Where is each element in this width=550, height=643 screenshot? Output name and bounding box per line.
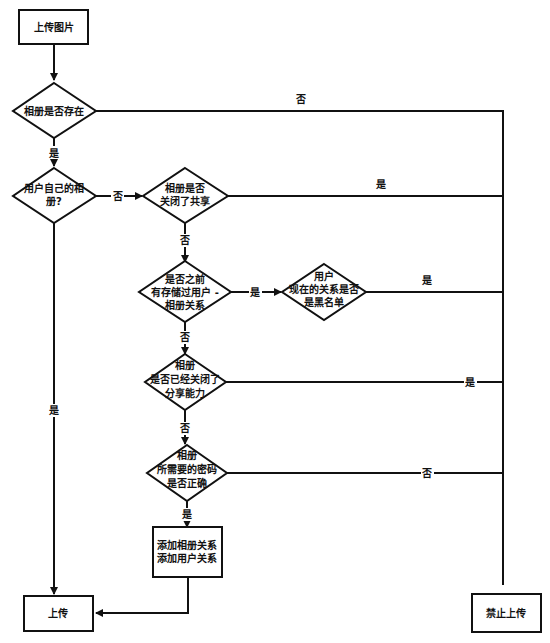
edge-add-to-upload [96, 576, 188, 613]
edge-label-relation-yes: 是 [249, 287, 260, 298]
blacklist-label-line3: 是黑名单 [303, 296, 344, 308]
edge-label-relation-no: 否 [179, 332, 190, 343]
start-node-label: 上传图片 [34, 21, 74, 33]
edge-label-password-no: 否 [421, 468, 432, 479]
own-album-label-line1: 用户自己的相 [23, 182, 84, 194]
edge-label-exists-no: 否 [295, 94, 306, 105]
password-decision: 相册 所需要的密码 是否正确 [147, 445, 227, 501]
relation-stored-label-line1: 是否之前 [164, 273, 205, 285]
relation-stored-label-line2: 有存储过用户 - [151, 286, 219, 298]
add-relations-label-line2: 添加用户关系 [157, 552, 217, 564]
edge-label-own-yes: 是 [48, 405, 59, 416]
sharing-ability-label-line2: 是否已经关闭了 [149, 373, 220, 385]
edge-label-sharing-closed-no: 否 [179, 235, 190, 246]
sharing-closed-label-line2: 关闭了共享 [160, 195, 210, 207]
edge-labels: 否 是 否 是 是 否 是 是 否 是 否 否 是 [48, 94, 477, 521]
edges [54, 44, 503, 613]
sharing-ability-label-line3: 分享能力 [165, 387, 205, 399]
upload-label: 上传 [48, 607, 68, 619]
edge-label-sharing-closed-yes: 是 [375, 179, 386, 190]
sharing-closed-label-line1: 相册是否 [165, 182, 205, 194]
edge-exists-no [96, 111, 503, 585]
edge-label-sharing-ability-no: 否 [179, 423, 190, 434]
edge-label-password-yes: 是 [181, 509, 192, 520]
blacklist-label-line2: 现在的关系是否 [289, 283, 359, 295]
edge-label-sharing-ability-yes: 是 [464, 377, 475, 388]
flowchart: 上传图片 相册是否存在 用户自己的相 册? 相册是否 关闭了共享 是否之前 有存… [0, 0, 550, 643]
blacklist-decision: 用户 现在的关系是否 是黑名单 [282, 264, 366, 320]
album-exists-decision: 相册是否存在 [13, 83, 96, 138]
forbid-upload-node: 禁止上传 [472, 594, 541, 632]
start-node: 上传图片 [19, 10, 88, 44]
password-label-line2: 所需要的密码 [157, 463, 217, 475]
own-album-label-line2: 册? [46, 196, 62, 207]
edge-label-own-no: 否 [112, 191, 123, 202]
sharing-closed-decision: 相册是否 关闭了共享 [143, 168, 228, 223]
edge-label-blacklist-yes: 是 [421, 275, 432, 286]
password-label-line3: 是否正确 [166, 477, 207, 489]
add-relations-node: 添加相册关系 添加用户关系 [153, 527, 222, 577]
upload-node: 上传 [24, 596, 93, 631]
relation-stored-decision: 是否之前 有存储过用户 - 相册关系 [139, 261, 231, 322]
forbid-upload-label: 禁止上传 [485, 607, 526, 619]
add-relations-label-line1: 添加相册关系 [157, 539, 217, 551]
edge-label-exists-yes: 是 [48, 148, 59, 159]
album-exists-label: 相册是否存在 [24, 105, 84, 117]
blacklist-label-line1: 用户 [313, 270, 334, 282]
sharing-ability-label-line1: 相册 [175, 359, 195, 371]
relation-stored-label-line3: 相册关系 [165, 299, 205, 311]
password-label-line1: 相册 [177, 449, 197, 461]
sharing-ability-decision: 相册 是否已经关闭了 分享能力 [145, 354, 226, 410]
own-album-decision: 用户自己的相 册? [13, 168, 96, 223]
